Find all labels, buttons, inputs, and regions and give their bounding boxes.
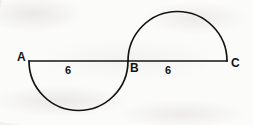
vertex-label-c: C — [231, 57, 240, 69]
length-label-ab: 6 — [65, 65, 71, 76]
figure-canvas — [0, 0, 253, 125]
geometry-figure: A B C 6 6 — [0, 0, 253, 125]
semicircle-arc-BC-upward — [128, 12, 227, 61]
length-label-bc: 6 — [165, 65, 171, 76]
vertex-label-b: B — [130, 62, 139, 74]
semicircle-arc-AB-downward — [29, 61, 128, 111]
vertex-label-a: A — [17, 51, 26, 63]
